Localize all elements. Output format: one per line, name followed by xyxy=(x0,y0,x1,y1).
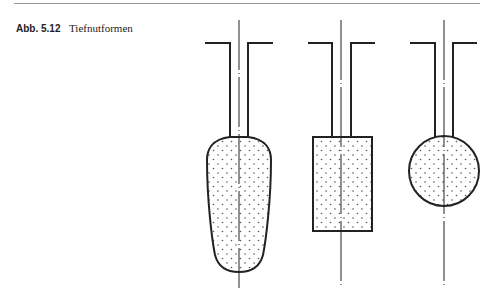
round-slot-shape xyxy=(409,20,479,288)
rectangular-slot-shape xyxy=(308,20,375,288)
drop-slot-shape xyxy=(205,20,273,288)
slot-shapes-drawing xyxy=(0,0,495,303)
